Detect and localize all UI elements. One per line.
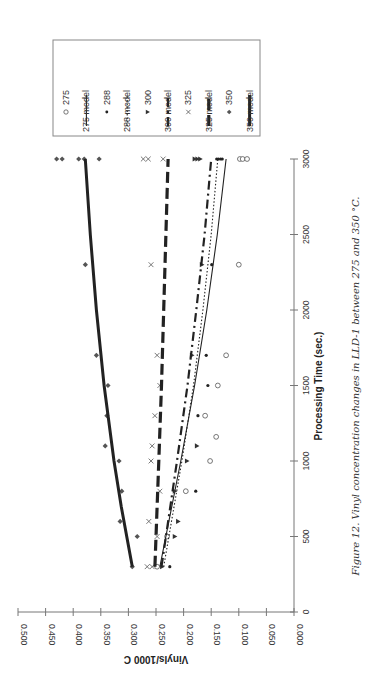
legend-label: 288 [102,90,112,105]
legend-item: 300 model [163,90,173,132]
y-tick-label: 0.000 [295,624,305,646]
marker-diamond [105,383,110,388]
figure-caption: Figure 12. Vinyl concentration changes i… [350,197,361,577]
marker-dot [210,263,213,266]
marker-dot [168,565,171,568]
y-tick-label: 0.050 [267,624,277,646]
legend-label: 275 [61,90,71,105]
plot-area [54,156,249,569]
legend-label: 300 [143,90,153,105]
marker-dot [205,354,208,357]
axes: 0500100015002000250030000.0000.0500.1000… [18,149,311,645]
y-axis-title: Vinyls/1000 C [124,654,188,665]
y-tick-label: 0.450 [47,624,57,646]
marker-dot [196,414,199,417]
y-tick-label: 0.500 [19,624,29,646]
x-axis-title: Processing Time (sec.) [313,332,324,441]
y-tick-label: 0.100 [240,624,250,646]
legend-label: 350 model [245,90,255,132]
marker-circle [245,157,250,162]
x-tick-label: 1000 [301,451,311,470]
marker-dot [221,157,224,160]
x-tick-label: 500 [301,529,311,543]
marker-diamond [118,519,123,524]
marker-circle [183,489,188,494]
x-tick-label: 2500 [301,225,311,244]
x-tick-label: 3000 [301,149,311,168]
marker-dot [206,384,209,387]
legend-label: 300 model [163,90,173,132]
marker-diamond [76,156,81,161]
marker-circle [208,459,213,464]
series-288 [168,157,224,568]
x-tick-label: 0 [301,609,311,614]
marker-circle [64,110,68,114]
model-line [162,159,212,567]
x-tick-label: 2000 [301,300,311,319]
y-tick-label: 0.400 [74,624,84,646]
y-tick-label: 0.200 [185,624,195,646]
x-tick-label: 1500 [301,376,311,395]
legend-label: 288 model [122,90,132,132]
series-275 [155,157,250,569]
chart: 0500100015002000250030000.0000.0500.1000… [0,0,377,693]
marker-diamond [54,156,59,161]
marker-diamond [135,534,140,539]
series-325 [141,157,166,569]
series-350-model [85,159,132,567]
marker-diamond [60,156,65,161]
model-line [85,159,132,567]
y-tick-label: 0.250 [157,624,167,646]
marker-dot [194,490,197,493]
y-tick-label: 0.150 [212,624,222,646]
y-tick-label: 0.300 [129,624,139,646]
marker-dot [105,111,108,114]
marker-diamond [97,156,102,161]
legend-label: 325 [183,90,193,105]
marker-circle [203,413,208,418]
marker-diamond [94,353,99,358]
series-325-model [155,159,168,567]
marker-triangle [185,458,190,463]
legend-item: 350 model [245,90,255,132]
legend-label: 325 model [204,90,214,132]
marker-diamond [103,443,108,448]
legend-item: 275 model [81,90,91,132]
marker-triangle [195,443,200,448]
marker-triangle [173,534,178,539]
legend-label: 350 [224,90,234,105]
y-tick-label: 0.350 [102,624,112,646]
marker-circle [214,434,219,439]
marker-triangle [176,519,181,524]
model-line [155,159,168,567]
legend-label: 275 model [81,90,91,132]
marker-circle [215,383,220,388]
legend-item: 325 model [204,90,214,132]
series-300-model [162,159,212,567]
marker-circle [236,262,241,267]
marker-triangle [198,156,203,161]
marker-diamond [83,262,88,267]
marker-circle [224,353,229,358]
legend: 275275 model288288 model300300 model3253… [53,40,260,136]
series-350 [54,156,140,569]
legend-item: 288 model [122,90,132,132]
marker-diamond [116,458,121,463]
